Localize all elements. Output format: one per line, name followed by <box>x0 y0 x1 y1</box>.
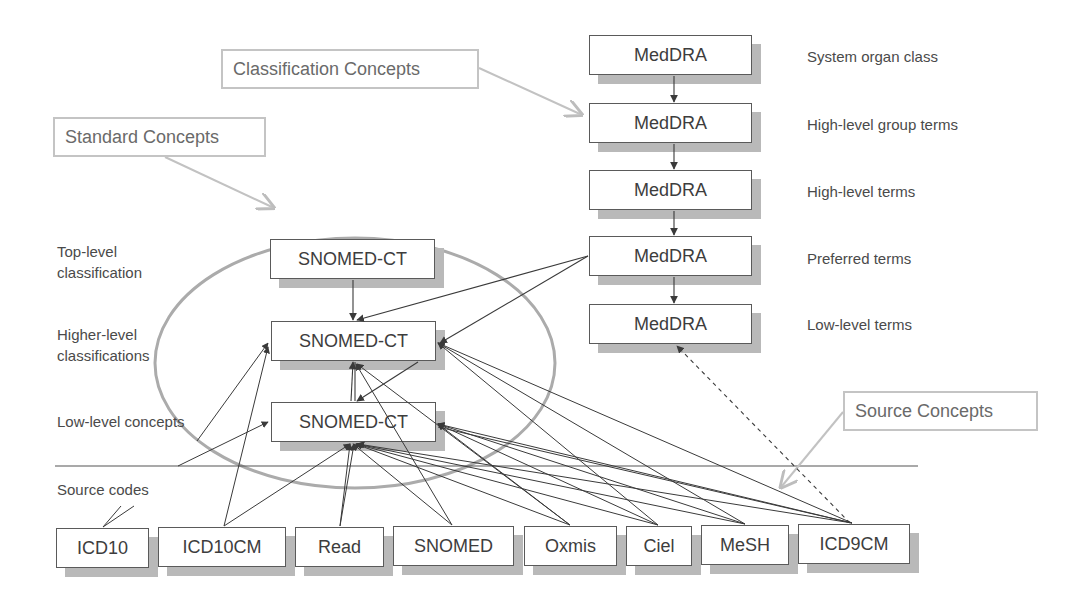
meddra-level-soc: System organ class <box>807 48 938 65</box>
meddra-node-llt[interactable]: MedDRA <box>589 304 752 344</box>
source-node-snomed[interactable]: SNOMED <box>393 526 514 566</box>
level-label-higher: Higher-level classifications <box>57 324 150 366</box>
meddra-label: MedDRA <box>589 304 752 344</box>
meddra-label: MedDRA <box>589 236 752 276</box>
snomed-label: SNOMED-CT <box>271 321 436 361</box>
meddra-level-pt: Preferred terms <box>807 250 911 267</box>
snomed-node-low[interactable]: SNOMED-CT <box>271 402 436 442</box>
source-label: Oxmis <box>524 526 617 566</box>
callout-arrow-classification <box>479 68 580 114</box>
source-node-icd9cm[interactable]: ICD9CM <box>798 524 910 564</box>
callout-source-concepts: Source Concepts <box>843 391 1038 431</box>
source-label: SNOMED <box>393 526 514 566</box>
source-node-icd10[interactable]: ICD10 <box>56 528 149 568</box>
meddra-node-soc[interactable]: MedDRA <box>589 35 752 75</box>
snomed-label: SNOMED-CT <box>271 402 436 442</box>
meddra-label: MedDRA <box>589 103 752 143</box>
snomed-node-higher[interactable]: SNOMED-CT <box>271 321 436 361</box>
callout-standard-concepts: Standard Concepts <box>53 117 266 157</box>
source-node-icd10cm[interactable]: ICD10CM <box>158 527 286 567</box>
meddra-level-hlgt: High-level group terms <box>807 116 958 133</box>
meddra-node-hlt[interactable]: MedDRA <box>589 170 752 210</box>
callout-arrow-source <box>782 412 843 486</box>
source-node-oxmis[interactable]: Oxmis <box>524 526 617 566</box>
level-label-low: Low-level concepts <box>57 411 185 432</box>
meddra-node-hlgt[interactable]: MedDRA <box>589 103 752 143</box>
source-label: ICD10CM <box>158 527 286 567</box>
source-label: ICD9CM <box>798 524 910 564</box>
meddra-level-hlt: High-level terms <box>807 183 915 200</box>
source-label: Read <box>295 527 384 567</box>
source-mapping-links <box>103 343 852 527</box>
meddra-label: MedDRA <box>589 35 752 75</box>
meddra-level-llt: Low-level terms <box>807 316 912 333</box>
source-node-read[interactable]: Read <box>295 527 384 567</box>
background-shapes <box>0 0 1088 601</box>
callout-classification-concepts: Classification Concepts <box>221 49 479 89</box>
link-layer <box>0 0 1088 601</box>
meddra-label: MedDRA <box>589 170 752 210</box>
source-label: MeSH <box>701 525 789 565</box>
callout-arrow-standard <box>165 157 272 207</box>
meddra-node-pt[interactable]: MedDRA <box>589 236 752 276</box>
snomed-node-top[interactable]: SNOMED-CT <box>270 239 435 279</box>
source-node-mesh[interactable]: MeSH <box>701 525 789 565</box>
source-codes-label: Source codes <box>57 479 149 500</box>
level-label-top: Top-level classification <box>57 241 142 283</box>
diagram-canvas: MedDRA MedDRA MedDRA MedDRA MedDRA Syste… <box>0 0 1088 601</box>
source-label: Ciel <box>626 526 692 566</box>
source-node-ciel[interactable]: Ciel <box>626 526 692 566</box>
snomed-label: SNOMED-CT <box>270 239 435 279</box>
source-label: ICD10 <box>56 528 149 568</box>
